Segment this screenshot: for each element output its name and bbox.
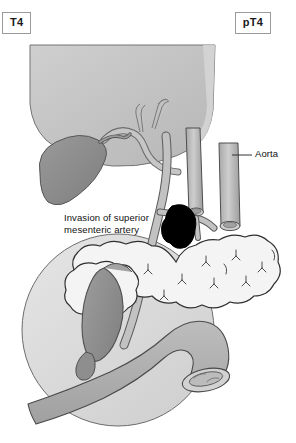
figure-root: T4 pT4 [0, 0, 296, 443]
aorta-vessel [219, 143, 240, 231]
sma-annotation-line1: Invasion of superior [64, 212, 149, 223]
inferior-vena-cava [186, 128, 204, 216]
aorta-annotation: Aorta [255, 148, 278, 160]
sma-invasion-annotation: Invasion of superior mesenteric artery [64, 212, 149, 236]
sma-annotation-line2: mesenteric artery [64, 224, 139, 235]
